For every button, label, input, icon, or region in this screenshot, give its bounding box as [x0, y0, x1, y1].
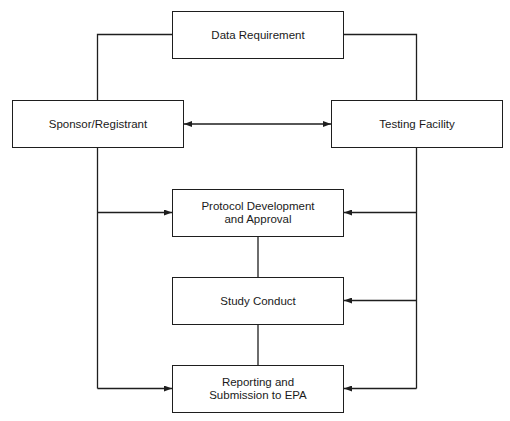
node-reporting-submission: Reporting and Submission to EPA: [172, 365, 344, 413]
node-label: Reporting and Submission to EPA: [209, 376, 307, 402]
flowchart-canvas: Data Requirement Sponsor/Registrant Test…: [0, 0, 510, 421]
node-label: Study Conduct: [220, 295, 295, 308]
node-label: Protocol Development and Approval: [201, 200, 314, 226]
node-testing-facility: Testing Facility: [331, 100, 503, 148]
node-label: Testing Facility: [379, 118, 454, 131]
edge-data-requirement-testing: [344, 35, 417, 101]
node-study-conduct: Study Conduct: [172, 277, 344, 325]
node-protocol-development: Protocol Development and Approval: [172, 189, 344, 237]
node-label: Data Requirement: [211, 29, 304, 42]
node-label: Sponsor/Registrant: [49, 118, 147, 131]
edge-data-requirement-sponsor: [98, 35, 173, 101]
node-sponsor-registrant: Sponsor/Registrant: [12, 100, 184, 148]
node-data-requirement: Data Requirement: [172, 11, 344, 59]
